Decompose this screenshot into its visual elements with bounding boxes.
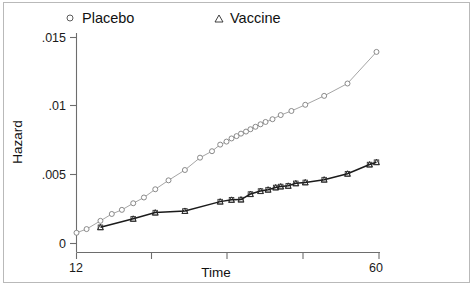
data-point-marker	[224, 139, 229, 144]
data-point-marker	[198, 155, 203, 160]
legend-entry-placebo: Placebo	[67, 10, 134, 26]
data-point-marker	[209, 149, 214, 154]
series-vaccine	[97, 159, 379, 230]
chart-legend: Placebo Vaccine	[67, 10, 281, 26]
data-point-marker	[263, 119, 268, 124]
data-point-marker	[84, 227, 89, 232]
data-point-marker	[109, 211, 114, 216]
data-point-marker	[141, 195, 146, 200]
data-point-marker	[258, 122, 263, 127]
data-point-marker	[303, 102, 308, 107]
data-point-marker	[374, 49, 379, 54]
data-point-marker	[253, 124, 258, 129]
data-point-marker	[229, 136, 234, 141]
data-point-marker	[248, 127, 253, 132]
data-point-marker	[98, 218, 103, 223]
data-point-marker	[345, 81, 350, 86]
series-placebo	[74, 49, 379, 235]
x-axis-ticks	[77, 253, 380, 260]
data-point-marker	[131, 201, 136, 206]
hazard-vs-time-chart: Placebo Vaccine .015	[0, 0, 474, 287]
data-point-marker	[166, 178, 171, 183]
circle-marker-icon	[67, 15, 73, 21]
y-tick-label-01: .01	[49, 99, 66, 113]
axes: .015 .01 .005 0 12 60 Time Hazard	[10, 31, 383, 280]
x-tick-label-12: 12	[69, 261, 83, 275]
chart-svg: Placebo Vaccine .015	[0, 0, 474, 287]
y-tick-label-015: .015	[42, 31, 66, 45]
x-axis-title: Time	[201, 265, 231, 280]
data-point-marker	[238, 131, 243, 136]
legend-entry-vaccine: Vaccine	[215, 10, 281, 26]
data-point-marker	[153, 187, 158, 192]
data-point-marker	[289, 108, 294, 113]
y-tick-label-0: 0	[59, 237, 66, 251]
data-point-marker	[270, 117, 275, 122]
legend-label-vaccine: Vaccine	[230, 10, 281, 26]
data-point-marker	[74, 230, 79, 235]
chart-screenshot: Placebo Vaccine .015	[0, 0, 474, 287]
y-axis-title: Hazard	[10, 120, 25, 164]
data-point-marker	[119, 207, 124, 212]
y-axis-ticks	[70, 38, 77, 244]
triangle-marker-icon	[215, 15, 223, 22]
data-point-marker	[182, 168, 187, 173]
data-point-marker	[278, 113, 283, 118]
legend-label-placebo: Placebo	[82, 10, 134, 26]
data-point-marker	[322, 93, 327, 98]
x-tick-label-60: 60	[369, 261, 383, 275]
data-series-layer	[74, 49, 379, 235]
y-tick-label-005: .005	[42, 168, 66, 182]
data-point-marker	[218, 142, 223, 147]
series-line-vaccine	[100, 162, 376, 227]
